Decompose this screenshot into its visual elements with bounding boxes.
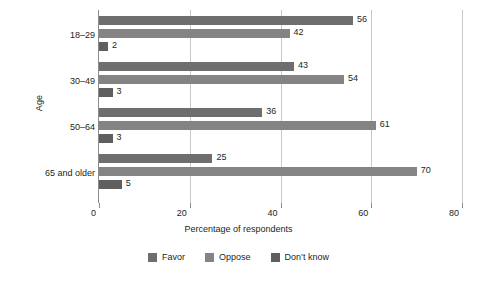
y-axis-category-label: 30–49	[17, 76, 95, 86]
bar-row: 42	[99, 29, 462, 38]
bar[interactable]	[99, 121, 376, 130]
x-axis-tick	[462, 203, 463, 208]
bar-chart-figure: Age 18–2930–4950–6465 and older 56422435…	[0, 0, 477, 287]
gridline-80	[462, 10, 463, 203]
bar-row: 3	[99, 88, 462, 97]
bar-row: 56	[99, 16, 462, 25]
bar[interactable]	[99, 42, 108, 51]
bar-value-label: 36	[266, 106, 276, 116]
legend-swatch-icon	[205, 253, 214, 262]
x-axis-tick	[371, 203, 372, 208]
legend-swatch-icon	[148, 253, 157, 262]
bar[interactable]	[99, 180, 122, 189]
bar-row: 54	[99, 75, 462, 84]
bar-row: 3	[99, 134, 462, 143]
bar-row: 25	[99, 154, 462, 163]
legend-swatch-icon	[271, 253, 280, 262]
bar-value-label: 42	[294, 27, 304, 37]
y-axis-category-label: 18–29	[17, 30, 95, 40]
y-axis-category-labels: 18–2930–4950–6465 and older	[10, 0, 95, 200]
x-axis-tick-label: 0	[91, 208, 99, 218]
legend-label: Favor	[162, 252, 185, 262]
bar[interactable]	[99, 62, 294, 71]
legend-item[interactable]: Favor	[148, 252, 185, 262]
bar-value-label: 3	[117, 86, 122, 96]
bar[interactable]	[99, 16, 353, 25]
bar-value-label: 54	[348, 73, 358, 83]
legend-item[interactable]: Don’t know	[271, 252, 330, 262]
bar-value-label: 5	[126, 178, 131, 188]
legend-label: Don’t know	[285, 252, 330, 262]
bar[interactable]	[99, 167, 417, 176]
bar[interactable]	[99, 75, 344, 84]
y-axis-category-label: 50–64	[17, 122, 95, 132]
bar-value-label: 25	[216, 152, 226, 162]
x-axis-tick	[99, 203, 100, 208]
bar-row: 2	[99, 42, 462, 51]
x-axis-tick-label: 80	[449, 208, 462, 218]
bar[interactable]	[99, 134, 113, 143]
bar[interactable]	[99, 108, 262, 117]
legend-item[interactable]: Oppose	[205, 252, 251, 262]
bar-row: 36	[99, 108, 462, 117]
bar-row: 61	[99, 121, 462, 130]
x-axis-tick	[281, 203, 282, 208]
bar-value-label: 3	[117, 132, 122, 142]
bar-row: 5	[99, 180, 462, 189]
x-axis-tick-label: 40	[267, 208, 280, 218]
x-axis-tick	[190, 203, 191, 208]
chart-legend: FavorOpposeDon’t know	[0, 252, 477, 262]
y-axis-category-label: 65 and older	[17, 168, 95, 178]
bar[interactable]	[99, 29, 290, 38]
x-axis-ticks: 020406080	[99, 203, 462, 219]
x-axis-tick-label: 60	[358, 208, 371, 218]
legend-label: Oppose	[219, 252, 251, 262]
x-axis-title: Percentage of respondents	[0, 224, 477, 234]
bar-value-label: 2	[112, 40, 117, 50]
bar-value-label: 43	[298, 60, 308, 70]
bar-row: 70	[99, 167, 462, 176]
plot-area: 56422435433661325705	[99, 10, 462, 203]
x-axis-tick-label: 20	[177, 208, 190, 218]
bar-row: 43	[99, 62, 462, 71]
bar[interactable]	[99, 154, 212, 163]
bar-value-label: 70	[421, 165, 431, 175]
bar-value-label: 56	[357, 14, 367, 24]
bar[interactable]	[99, 88, 113, 97]
bar-value-label: 61	[380, 119, 390, 129]
